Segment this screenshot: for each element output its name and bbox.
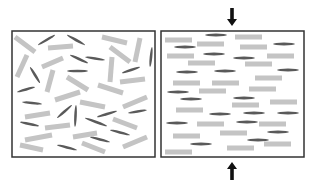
- light-rod: [123, 97, 147, 107]
- dark-rod: [233, 97, 255, 100]
- dark-rod: [273, 43, 295, 46]
- light-rod: [245, 62, 272, 67]
- dark-rod: [209, 113, 231, 116]
- light-rod: [227, 146, 254, 151]
- light-rod: [176, 108, 203, 113]
- dark-rod: [69, 54, 88, 64]
- light-rod: [197, 122, 224, 127]
- dark-rod: [190, 143, 212, 146]
- light-rod: [249, 87, 276, 92]
- light-rod: [45, 125, 70, 128]
- light-rod: [212, 81, 239, 86]
- dark-rod: [110, 129, 131, 137]
- dark-rod: [180, 98, 202, 101]
- dark-rod: [174, 46, 196, 49]
- compression-arrows: [227, 8, 237, 180]
- light-rod: [165, 150, 192, 155]
- light-rod: [259, 122, 286, 127]
- light-rod: [267, 54, 294, 59]
- light-rod: [264, 142, 291, 147]
- light-rod: [25, 113, 50, 117]
- light-rod: [135, 38, 140, 62]
- light-rod: [80, 102, 105, 107]
- dark-rod: [203, 53, 225, 56]
- dark-rod: [149, 47, 154, 67]
- random-orientation-panel: [12, 31, 155, 157]
- dark-rod: [128, 109, 147, 115]
- light-rod: [20, 145, 43, 150]
- light-rod: [42, 58, 63, 67]
- dark-rod: [214, 70, 236, 73]
- light-rod: [67, 77, 88, 90]
- light-rod: [255, 76, 282, 81]
- light-rod: [15, 37, 35, 52]
- light-rod: [232, 103, 259, 108]
- dark-rod: [90, 136, 111, 144]
- dark-rod: [67, 70, 88, 73]
- dark-rod: [277, 112, 299, 115]
- light-rod: [165, 38, 192, 43]
- light-rod: [120, 79, 145, 82]
- dark-rod: [233, 57, 255, 60]
- light-rod: [188, 61, 215, 66]
- dark-rod: [85, 56, 105, 62]
- light-rod: [113, 119, 137, 128]
- dark-rod: [56, 104, 73, 119]
- arrow-down-icon: [227, 8, 237, 26]
- light-rod: [220, 131, 247, 136]
- light-rod: [235, 35, 262, 40]
- dark-rod: [37, 34, 55, 46]
- light-rod: [110, 57, 112, 82]
- light-rod: [82, 143, 105, 152]
- dark-rod: [17, 86, 36, 94]
- dark-rod: [74, 105, 78, 127]
- light-rod: [25, 135, 52, 140]
- light-rod: [47, 70, 53, 92]
- dark-rod: [22, 101, 42, 106]
- dark-rod: [176, 71, 198, 74]
- light-rod: [48, 46, 73, 48]
- light-rod: [98, 85, 123, 93]
- dark-rod: [122, 66, 141, 74]
- orientation-diagram: [0, 0, 314, 185]
- aligned-orientation-panel: [161, 31, 304, 157]
- dark-rod: [20, 121, 40, 128]
- dark-rod: [29, 66, 41, 83]
- dark-rod: [277, 69, 299, 72]
- light-rod: [17, 55, 27, 77]
- dark-rod: [236, 121, 258, 124]
- dark-rod: [247, 139, 269, 142]
- light-rod: [173, 134, 200, 139]
- light-rod: [73, 133, 97, 137]
- light-rod: [199, 89, 226, 94]
- dark-rod: [85, 117, 108, 127]
- light-rod: [197, 42, 224, 47]
- dark-rod: [267, 131, 289, 134]
- light-rod: [270, 100, 297, 105]
- light-rod: [102, 37, 127, 43]
- dark-rod: [243, 112, 265, 115]
- arrow-up-icon: [227, 162, 237, 180]
- light-rod: [167, 54, 194, 59]
- light-rod: [240, 45, 267, 50]
- light-rod: [173, 81, 200, 86]
- light-rod: [123, 137, 147, 147]
- dark-rod: [167, 91, 189, 94]
- dark-rod: [166, 122, 188, 125]
- dark-rod: [205, 34, 227, 37]
- dark-rod: [57, 144, 78, 152]
- light-rod: [55, 92, 80, 100]
